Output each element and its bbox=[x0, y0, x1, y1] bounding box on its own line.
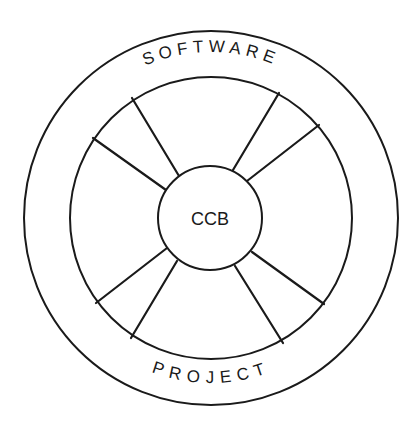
label-software: SOFTWARE bbox=[140, 37, 283, 70]
spoke-upper-left bbox=[132, 98, 179, 176]
spoke-right-lower bbox=[252, 252, 324, 304]
spoke-right-upper bbox=[247, 125, 319, 181]
software-project-ccb-diagram: SOFTWARE PROJECT CCB bbox=[0, 0, 420, 424]
spoke-left-upper bbox=[93, 138, 166, 190]
spoke-upper-right bbox=[233, 93, 279, 170]
spoke-lower-left bbox=[131, 261, 177, 338]
label-project: PROJECT bbox=[150, 358, 272, 387]
label-ccb: CCB bbox=[191, 209, 229, 229]
label-software-text: SOFTWARE bbox=[140, 37, 283, 70]
label-project-text: PROJECT bbox=[150, 358, 272, 387]
spoke-lower-right bbox=[235, 266, 283, 343]
